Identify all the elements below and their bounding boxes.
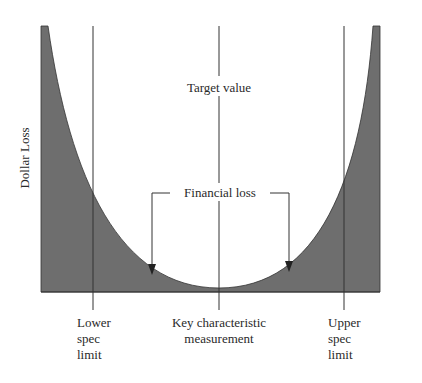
left-loss-arrow — [152, 193, 170, 266]
loss-function-diagram: Dollar Loss Target value Financial loss … — [0, 0, 422, 383]
upper-spec-label-line2: spec — [328, 331, 351, 346]
y-axis-label: Dollar Loss — [17, 127, 32, 188]
financial-loss-label: Financial loss — [184, 185, 256, 200]
right-loss-arrow — [270, 193, 289, 263]
target-value-label: Target value — [187, 80, 251, 95]
loss-area — [41, 26, 380, 292]
lower-spec-label-line3: limit — [77, 347, 102, 362]
center-label-line2: measurement — [184, 331, 254, 346]
upper-spec-label-line1: Upper — [328, 315, 361, 330]
lower-spec-label-line1: Lower — [77, 315, 112, 330]
center-label-line1: Key characteristic — [172, 315, 266, 330]
upper-spec-label-line3: limit — [328, 347, 353, 362]
lower-spec-label-line2: spec — [77, 331, 100, 346]
